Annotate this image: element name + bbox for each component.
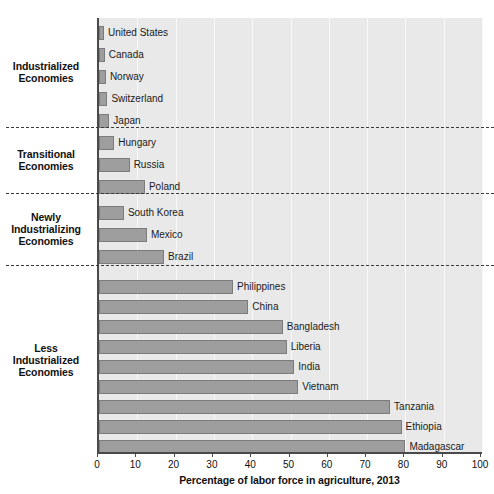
tick-mark-90 [442, 452, 443, 457]
tick-mark-20 [174, 452, 175, 457]
tick-label-40: 40 [235, 459, 265, 470]
group-label-line: Industrializing [0, 223, 92, 235]
bar-label-brazil: Brazil [164, 250, 193, 264]
bar-bangladesh[interactable] [99, 320, 283, 334]
bar-label-norway: Norway [106, 70, 144, 84]
bar-label-hungary: Hungary [114, 136, 156, 150]
bar-label-vietnam: Vietnam [298, 380, 339, 394]
bar-label-poland: Poland [145, 180, 180, 194]
tick-label-70: 70 [350, 459, 380, 470]
tick-mark-80 [403, 452, 404, 457]
bar-label-russia: Russia [130, 158, 165, 172]
bar-norway[interactable] [99, 70, 106, 84]
bar-label-liberia: Liberia [287, 340, 321, 354]
bar-mexico[interactable] [99, 228, 147, 242]
gridline-100 [482, 18, 483, 452]
cutoff-top-text [52, 0, 272, 5]
x-axis-line [97, 452, 482, 454]
group-label-line: Economies [0, 160, 92, 172]
tick-mark-30 [212, 452, 213, 457]
group-label-line: Economies [0, 366, 92, 378]
tick-label-90: 90 [427, 459, 457, 470]
bar-brazil[interactable] [99, 250, 164, 264]
bar-ethiopia[interactable] [99, 420, 402, 434]
gridline-90 [444, 18, 445, 452]
gridline-70 [367, 18, 368, 452]
bar-russia[interactable] [99, 158, 130, 172]
tick-label-20: 20 [159, 459, 189, 470]
group-label-line: Newly [0, 211, 92, 223]
tick-mark-0 [97, 452, 98, 457]
gridline-80 [405, 18, 406, 452]
tick-label-30: 30 [197, 459, 227, 470]
group-label-industrialized-economies: IndustrializedEconomies [0, 60, 92, 84]
bar-label-ethiopia: Ethiopia [402, 420, 442, 434]
tick-mark-60 [327, 452, 328, 457]
tick-mark-100 [480, 452, 481, 457]
tick-label-100: 100 [465, 459, 494, 470]
tick-mark-40 [250, 452, 251, 457]
group-label-line: Economies [0, 72, 92, 84]
group-label-line: Economies [0, 235, 92, 247]
bar-label-japan: Japan [109, 114, 140, 128]
tick-label-50: 50 [274, 459, 304, 470]
bar-poland[interactable] [99, 180, 145, 194]
bar-label-india: India [294, 360, 320, 374]
bar-label-south-korea: South Korea [124, 206, 184, 220]
x-axis-title: Percentage of labor force in agriculture… [97, 474, 482, 486]
bar-hungary[interactable] [99, 136, 114, 150]
bar-switzerland[interactable] [99, 92, 107, 106]
chart-figure: United StatesCanadaNorwaySwitzerlandJapa… [0, 0, 494, 494]
group-label-line: Transitional [0, 148, 92, 160]
bar-label-china: China [248, 300, 278, 314]
tick-mark-70 [365, 452, 366, 457]
bar-label-philippines: Philippines [233, 280, 285, 294]
group-separator-1 [6, 127, 494, 128]
bar-japan[interactable] [99, 114, 109, 128]
bar-label-united-states: United States [104, 26, 168, 40]
group-label-less-industrialized-economies: LessIndustrializedEconomies [0, 342, 92, 378]
bar-tanzania[interactable] [99, 400, 390, 414]
bar-label-mexico: Mexico [147, 228, 183, 242]
plot-area: United StatesCanadaNorwaySwitzerlandJapa… [97, 18, 482, 452]
bar-south-korea[interactable] [99, 206, 124, 220]
bar-india[interactable] [99, 360, 294, 374]
bar-liberia[interactable] [99, 340, 287, 354]
bar-china[interactable] [99, 300, 248, 314]
group-separator-2 [6, 193, 494, 194]
group-separator-3 [6, 265, 494, 266]
bar-label-bangladesh: Bangladesh [283, 320, 340, 334]
group-label-transitional-economies: TransitionalEconomies [0, 148, 92, 172]
bar-label-switzerland: Switzerland [107, 92, 163, 106]
bar-label-canada: Canada [105, 48, 144, 62]
bar-vietnam[interactable] [99, 380, 298, 394]
tick-mark-50 [289, 452, 290, 457]
tick-label-0: 0 [82, 459, 112, 470]
tick-label-10: 10 [120, 459, 150, 470]
tick-label-80: 80 [388, 459, 418, 470]
group-label-line: Less [0, 342, 92, 354]
bar-label-tanzania: Tanzania [390, 400, 434, 414]
bar-philippines[interactable] [99, 280, 233, 294]
tick-label-60: 60 [312, 459, 342, 470]
group-label-line: Industrialized [0, 354, 92, 366]
group-label-newly-industrializing-economies: NewlyIndustrializingEconomies [0, 211, 92, 247]
group-label-line: Industrialized [0, 60, 92, 72]
tick-mark-10 [135, 452, 136, 457]
